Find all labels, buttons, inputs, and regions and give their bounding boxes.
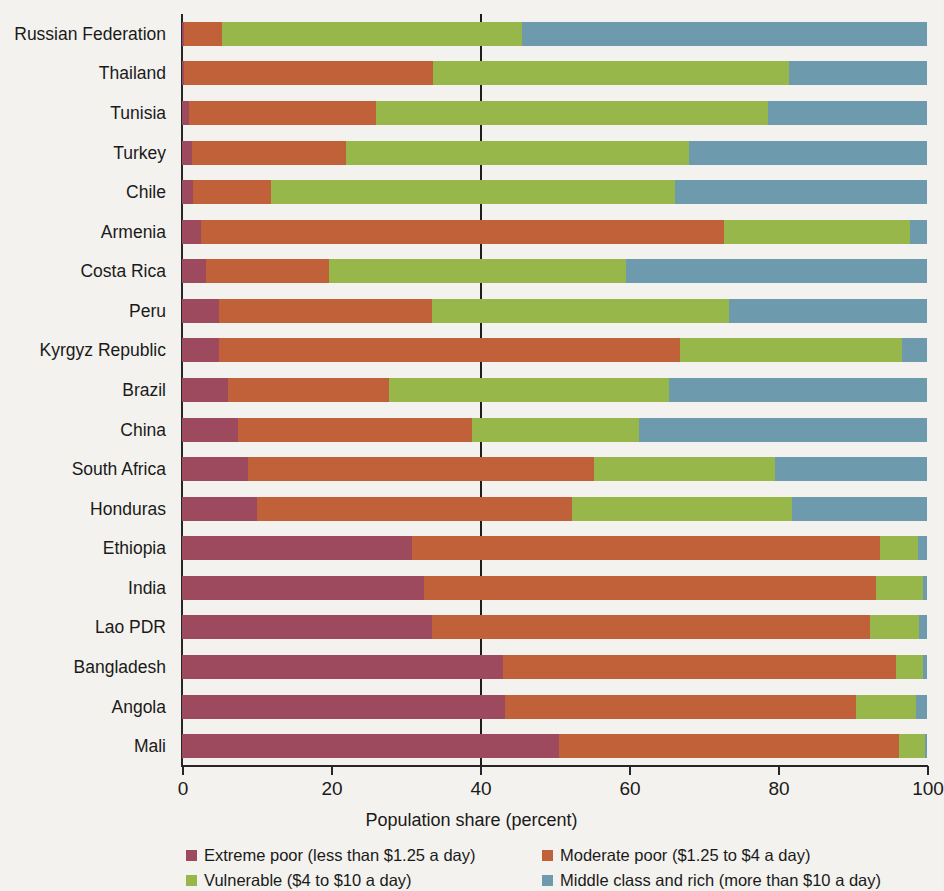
bar-segment bbox=[522, 22, 927, 46]
row-label: South Africa bbox=[0, 456, 166, 482]
chart-row: South Africa bbox=[182, 456, 927, 482]
x-axis-tick bbox=[629, 766, 631, 775]
legend-label: Middle class and rich (more than $10 a d… bbox=[560, 871, 881, 890]
bar-segment bbox=[182, 378, 228, 402]
bar-segment bbox=[182, 536, 412, 560]
chart-row: Kyrgyz Republic bbox=[182, 337, 927, 363]
stacked-bar bbox=[182, 536, 927, 560]
stacked-bar bbox=[182, 655, 927, 679]
row-label: Costa Rica bbox=[0, 258, 166, 284]
bar-segment bbox=[503, 655, 896, 679]
bar-segment bbox=[182, 615, 432, 639]
bar-segment bbox=[432, 615, 871, 639]
chart-legend: Extreme poor (less than $1.25 a day)Mode… bbox=[186, 843, 943, 891]
bar-segment bbox=[219, 299, 432, 323]
bar-segment bbox=[182, 141, 192, 165]
x-axis-tick-label: 80 bbox=[768, 778, 789, 800]
bar-segment bbox=[206, 259, 329, 283]
row-label: Turkey bbox=[0, 140, 166, 166]
bar-segment bbox=[919, 615, 927, 639]
chart-row: Turkey bbox=[182, 140, 927, 166]
bar-segment bbox=[182, 418, 238, 442]
bar-segment bbox=[222, 22, 521, 46]
stacked-bar bbox=[182, 418, 927, 442]
bar-segment bbox=[182, 299, 219, 323]
bar-segment bbox=[257, 497, 572, 521]
bar-segment bbox=[669, 378, 927, 402]
bar-segment bbox=[433, 61, 789, 85]
legend-item: Moderate poor ($1.25 to $4 a day) bbox=[542, 843, 942, 868]
stacked-bar bbox=[182, 141, 927, 165]
x-axis-title: Population share (percent) bbox=[0, 810, 943, 831]
stacked-bar bbox=[182, 61, 927, 85]
chart-row: Mali bbox=[182, 733, 927, 759]
x-axis-tick-label: 60 bbox=[619, 778, 640, 800]
chart-row: Armenia bbox=[182, 219, 927, 245]
row-label: Tunisia bbox=[0, 100, 166, 126]
row-label: Russian Federation bbox=[0, 21, 166, 47]
bar-segment bbox=[789, 61, 927, 85]
bar-segment bbox=[729, 299, 927, 323]
bar-segment bbox=[675, 180, 927, 204]
bar-segment bbox=[201, 220, 725, 244]
bar-segment bbox=[228, 378, 389, 402]
row-label: China bbox=[0, 417, 166, 443]
legend-swatch-icon bbox=[542, 850, 553, 861]
x-axis-tick-label: 100 bbox=[912, 778, 944, 800]
bar-segment bbox=[182, 457, 248, 481]
bar-segment bbox=[376, 101, 768, 125]
bar-segment bbox=[572, 497, 793, 521]
chart-row: Angola bbox=[182, 694, 927, 720]
bar-segment bbox=[639, 418, 927, 442]
bar-segment bbox=[238, 418, 472, 442]
chart-row: Russian Federation bbox=[182, 21, 927, 47]
legend-item: Vulnerable ($4 to $10 a day) bbox=[186, 868, 538, 891]
bar-segment bbox=[184, 61, 433, 85]
plot-area: Russian FederationThailandTunisiaTurkeyC… bbox=[182, 14, 927, 766]
chart-row: Thailand bbox=[182, 60, 927, 86]
row-label: Armenia bbox=[0, 219, 166, 245]
legend-swatch-icon bbox=[186, 850, 197, 861]
stacked-bar bbox=[182, 220, 927, 244]
bar-segment bbox=[870, 615, 918, 639]
bar-segment bbox=[184, 22, 222, 46]
bar-segment bbox=[768, 101, 927, 125]
chart-row: China bbox=[182, 417, 927, 443]
bar-segment bbox=[182, 734, 559, 758]
row-label: Peru bbox=[0, 298, 166, 324]
row-label: Kyrgyz Republic bbox=[0, 337, 166, 363]
bar-segment bbox=[219, 338, 679, 362]
bar-segment bbox=[792, 497, 927, 521]
bar-segment bbox=[182, 338, 219, 362]
bar-segment bbox=[594, 457, 775, 481]
x-axis-tick bbox=[480, 766, 482, 775]
bar-segment bbox=[412, 536, 880, 560]
stacked-bar bbox=[182, 615, 927, 639]
bar-segment bbox=[856, 695, 916, 719]
chart-row: Peru bbox=[182, 298, 927, 324]
bar-segment bbox=[902, 338, 927, 362]
bar-segment bbox=[248, 457, 594, 481]
bar-segment bbox=[192, 141, 346, 165]
stacked-bar bbox=[182, 734, 927, 758]
chart-row: Lao PDR bbox=[182, 614, 927, 640]
bar-segment bbox=[182, 695, 505, 719]
bar-segment bbox=[724, 220, 910, 244]
x-axis-tick bbox=[778, 766, 780, 775]
bar-segment bbox=[910, 220, 927, 244]
stacked-bar bbox=[182, 259, 927, 283]
row-label: Brazil bbox=[0, 377, 166, 403]
bar-segment bbox=[916, 695, 927, 719]
bar-segment bbox=[626, 259, 927, 283]
stacked-bar bbox=[182, 497, 927, 521]
bar-segment bbox=[189, 101, 376, 125]
row-label: Ethiopia bbox=[0, 535, 166, 561]
bar-segment bbox=[182, 576, 424, 600]
bar-segment bbox=[876, 576, 922, 600]
x-axis-tick-label: 40 bbox=[470, 778, 491, 800]
bar-segment bbox=[899, 734, 925, 758]
row-label: Lao PDR bbox=[0, 614, 166, 640]
bar-segment bbox=[472, 418, 639, 442]
x-axis-tick-label: 20 bbox=[321, 778, 342, 800]
